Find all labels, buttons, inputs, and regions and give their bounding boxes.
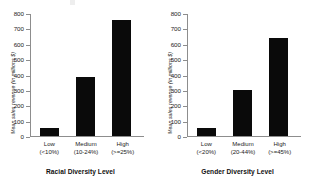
- x-tick-range: (20-44%): [225, 148, 261, 156]
- bar-low: [197, 128, 216, 136]
- bar-medium: [76, 77, 95, 136]
- x-tick-range: (10-24%): [68, 148, 104, 156]
- y-tick-label: 100: [14, 119, 24, 125]
- y-tick-label: 700: [171, 26, 181, 32]
- y-tick-label: 100: [171, 119, 181, 125]
- y-tick-100: [183, 122, 187, 123]
- x-tick-label-medium: Medium (10-24%): [68, 140, 104, 157]
- x-tick-labels-gender: Low (<20%) Medium (20-44%) High (>=45%): [188, 140, 298, 157]
- y-tick-700: [183, 29, 187, 30]
- x-tick-name: Medium: [232, 141, 253, 147]
- x-tick-name: High: [273, 141, 285, 147]
- x-tick-name: High: [116, 141, 128, 147]
- bar-high: [269, 38, 288, 136]
- y-tick-500: [183, 60, 187, 61]
- x-axis-title: Racial Diversity Level: [0, 168, 157, 175]
- x-tick-label-high: High (>=45%): [262, 140, 298, 157]
- bar-high: [112, 20, 131, 136]
- y-tick-label: 200: [171, 103, 181, 109]
- y-tick-300: [26, 91, 30, 92]
- y-tick-label: 800: [171, 11, 181, 17]
- x-tick-name: Low: [44, 141, 55, 147]
- y-tick-100: [26, 122, 30, 123]
- y-tick-label: 300: [171, 88, 181, 94]
- y-tick-600: [183, 45, 187, 46]
- y-tick-400: [183, 76, 187, 77]
- y-tick-500: [26, 60, 30, 61]
- y-tick-label: 500: [14, 57, 24, 63]
- y-tick-label: 300: [14, 88, 24, 94]
- x-tick-label-low: Low (<20%): [188, 140, 224, 157]
- y-tick-label: 700: [14, 26, 24, 32]
- bar-group-racial: [31, 14, 140, 136]
- y-tick-label: 600: [171, 42, 181, 48]
- x-tick-label-medium: Medium (20-44%): [225, 140, 261, 157]
- y-tick-0: [26, 137, 30, 138]
- y-tick-800: [183, 14, 187, 15]
- x-axis-line: [30, 136, 144, 137]
- y-tick-200: [183, 106, 187, 107]
- y-tick-label: 0: [21, 134, 24, 140]
- y-tick-600: [26, 45, 30, 46]
- y-tick-label: 400: [14, 72, 24, 78]
- y-tick-label: 0: [178, 134, 181, 140]
- bar-medium: [233, 90, 252, 136]
- x-axis-title: Gender Diversity Level: [157, 168, 314, 175]
- chart-panel-racial-diversity: Mean sales revenue (in millions $) 800 7…: [0, 0, 157, 190]
- x-tick-range: (<20%): [188, 148, 224, 156]
- figure-two-bar-charts: Mean sales revenue (in millions $) 800 7…: [0, 0, 314, 190]
- x-tick-labels-racial: Low (<10%) Medium (10-24%) High (>=25%): [31, 140, 141, 157]
- y-tick-label: 800: [14, 11, 24, 17]
- y-tick-700: [26, 29, 30, 30]
- x-tick-name: Low: [201, 141, 212, 147]
- y-tick-200: [26, 106, 30, 107]
- plot-area-racial: 800 700 600 500 400 300 200 100 0: [30, 14, 140, 137]
- y-tick-800: [26, 14, 30, 15]
- y-tick-label: 600: [14, 42, 24, 48]
- x-axis-line: [187, 136, 301, 137]
- image-artifact: [70, 0, 75, 5]
- plot-area-gender: 800 700 600 500 400 300 200 100 0: [187, 14, 297, 137]
- bar-low: [40, 128, 59, 136]
- bar-group-gender: [188, 14, 297, 136]
- chart-panel-gender-diversity: Mean sales revenue (in millions $) 800 7…: [157, 0, 314, 190]
- y-tick-label: 500: [171, 57, 181, 63]
- y-tick-label: 200: [14, 103, 24, 109]
- x-tick-range: (<10%): [31, 148, 67, 156]
- y-tick-400: [26, 76, 30, 77]
- x-tick-name: Medium: [75, 141, 96, 147]
- x-tick-label-low: Low (<10%): [31, 140, 67, 157]
- y-tick-label: 400: [171, 72, 181, 78]
- x-tick-range: (>=25%): [105, 148, 141, 156]
- y-tick-300: [183, 91, 187, 92]
- x-tick-range: (>=45%): [262, 148, 298, 156]
- x-tick-label-high: High (>=25%): [105, 140, 141, 157]
- y-tick-0: [183, 137, 187, 138]
